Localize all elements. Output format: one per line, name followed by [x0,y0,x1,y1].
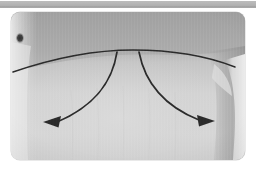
photo-canvas [11,12,245,160]
clinical-photo [11,12,245,160]
skin-lesion-mole [16,33,24,43]
header-band-shadow [0,6,256,8]
center-highlight [31,50,215,158]
screenshot-root: Grayscale clinical photograph of a lower… [0,0,256,172]
